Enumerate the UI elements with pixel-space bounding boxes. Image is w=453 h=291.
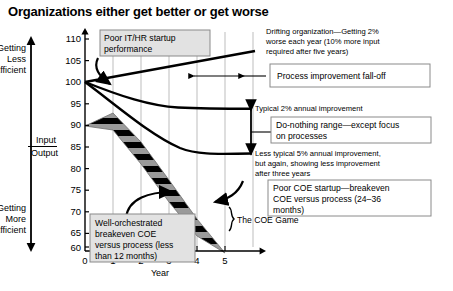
y-tick-75: 75 bbox=[70, 184, 81, 195]
annotation-well-orchestrated: Well-orchestrated breakeven COE versus p… bbox=[90, 214, 195, 262]
well-orch-line4: than 12 months) bbox=[95, 251, 157, 261]
leader-poor-coe bbox=[215, 181, 243, 202]
coe-game-brace bbox=[229, 207, 234, 231]
drifting-line1: Drifting organization—Getting 2% bbox=[266, 27, 379, 36]
getting-more-efficient-l1: Getting bbox=[0, 203, 26, 213]
getting-less-efficient-l1: Getting bbox=[0, 43, 26, 53]
do-nothing-double-arrow bbox=[251, 110, 271, 154]
typical2-label: Typical 2% annual improvement bbox=[255, 104, 364, 113]
annotation-poor-coe-startup: Poor COE startup—breakeven COE versus pr… bbox=[268, 180, 431, 216]
do-nothing-line1: Do-nothing range—except focus bbox=[276, 120, 399, 130]
y-tick-70: 70 bbox=[70, 206, 81, 217]
coe-game-label: The COE Game bbox=[237, 215, 299, 225]
annotation-do-nothing-range: Do-nothing range—except focus on process… bbox=[271, 117, 431, 143]
poor-coe-line2: COE versus process (24–36 bbox=[273, 194, 381, 204]
poor-it-hr-line1: Poor IT/HR startup bbox=[104, 33, 176, 43]
y-tick-labels: 110 105 100 95 90 85 80 75 70 65 60 bbox=[65, 33, 81, 253]
annotation-fall-off: Process improvement fall-off bbox=[270, 64, 430, 87]
page-title: Organizations either get better or get w… bbox=[8, 4, 269, 19]
well-orch-line3: versus process (less bbox=[95, 240, 173, 250]
drifting-line3: required after five years) bbox=[266, 47, 349, 56]
annotation-poor-it-hr: Poor IT/HR startup performance bbox=[100, 30, 210, 56]
getting-more-efficient-l2: More bbox=[5, 214, 26, 224]
y-tick-100: 100 bbox=[65, 76, 81, 87]
well-orch-line1: Well-orchestrated bbox=[95, 218, 162, 228]
chart-figure: 110 105 100 95 90 85 80 75 70 65 60 0 1 … bbox=[0, 22, 453, 291]
less-typical-line1: Less typical 5% annual improvement, bbox=[255, 149, 381, 158]
x-axis-title: Year bbox=[151, 268, 169, 278]
getting-less-efficient-l2: Less bbox=[7, 54, 27, 64]
y-tick-110: 110 bbox=[66, 33, 81, 44]
getting-less-efficient-l3: Efficient bbox=[0, 65, 26, 75]
efficiency-direction-arrow bbox=[27, 36, 36, 252]
y-tick-90: 90 bbox=[70, 119, 81, 130]
x-tick-0: 0 bbox=[82, 255, 87, 266]
getting-more-efficient-l3: Efficient bbox=[0, 225, 26, 235]
y-tick-85: 85 bbox=[70, 141, 81, 152]
input-label: Input bbox=[36, 135, 57, 145]
axis-side-labels: Getting Less Efficient Input Output Gett… bbox=[0, 43, 58, 235]
poor-it-hr-line2: performance bbox=[104, 44, 152, 54]
drifting-line2: worse each year (10% more input bbox=[265, 37, 380, 46]
annotation-less-typical-5-percent: Less typical 5% annual improvement, but … bbox=[255, 149, 381, 178]
less-typical-line3: after three years bbox=[255, 169, 310, 178]
well-orch-line2: breakeven COE bbox=[95, 229, 156, 239]
y-axis bbox=[81, 28, 89, 251]
y-tick-65: 65 bbox=[70, 227, 81, 238]
y-tick-105: 105 bbox=[65, 55, 81, 66]
y-tick-95: 95 bbox=[70, 98, 81, 109]
y-tick-80: 80 bbox=[70, 163, 81, 174]
fall-off-label: Process improvement fall-off bbox=[277, 71, 386, 81]
poor-coe-line3: months) bbox=[273, 205, 304, 215]
y-tick-60: 60 bbox=[70, 242, 81, 253]
poor-coe-line1: Poor COE startup—breakeven bbox=[273, 183, 390, 193]
annotation-typical-2-percent: Typical 2% annual improvement bbox=[255, 104, 364, 113]
less-typical-line2: but again, showing less improvement bbox=[255, 159, 381, 168]
do-nothing-line2: on processes bbox=[276, 131, 327, 141]
x-tick-5: 5 bbox=[222, 255, 227, 266]
output-label: Output bbox=[31, 148, 59, 158]
series-lines bbox=[85, 51, 255, 154]
annotation-drifting-organization: Drifting organization—Getting 2% worse e… bbox=[265, 27, 380, 56]
annotation-coe-game: The COE Game bbox=[237, 215, 299, 225]
